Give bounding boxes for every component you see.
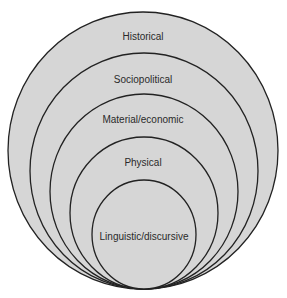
nested-circles-diagram: Historical Sociopolitical Material/econo…	[0, 0, 287, 298]
label-sociopolitical: Sociopolitical	[114, 74, 172, 85]
label-linguistic-discursive: Linguistic/discursive	[100, 231, 189, 242]
label-material-economic: Material/economic	[102, 114, 183, 125]
label-physical: Physical	[124, 157, 161, 168]
label-historical: Historical	[122, 31, 163, 42]
